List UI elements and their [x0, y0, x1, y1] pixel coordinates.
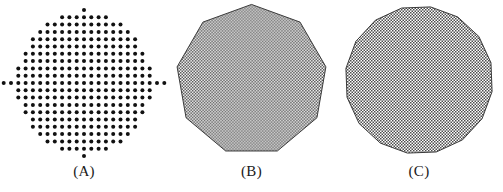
lattice-dot [67, 37, 71, 41]
lattice-dot [148, 81, 152, 85]
lattice-dot [31, 118, 35, 122]
lattice-dot [155, 81, 159, 85]
lattice-dot [104, 81, 108, 85]
lattice-dot [38, 125, 42, 129]
lattice-dot [104, 132, 108, 136]
lattice-dot [97, 74, 101, 78]
lattice-dot [126, 66, 130, 70]
lattice-dot [24, 81, 28, 85]
lattice-dot [82, 96, 86, 100]
lattice-dot [67, 96, 71, 100]
lattice-dot [89, 110, 93, 114]
lattice-dot [140, 74, 144, 78]
lattice-dot [140, 96, 144, 100]
lattice-dot [46, 45, 50, 49]
lattice-dot [60, 132, 64, 136]
panel-a-label: (A) [73, 164, 95, 179]
lattice-dot [119, 132, 123, 136]
lattice-dot [60, 23, 64, 27]
nonagon-shape [177, 4, 326, 151]
lattice-dot [53, 81, 57, 85]
lattice-dot [53, 125, 57, 129]
lattice-dot [31, 37, 35, 41]
lattice-dot [60, 30, 64, 34]
lattice-dot [119, 96, 123, 100]
lattice-dot [82, 30, 86, 34]
lattice-dot [97, 66, 101, 70]
lattice-dot [38, 30, 42, 34]
lattice-dot [60, 125, 64, 129]
lattice-dot [53, 23, 57, 27]
lattice-dot [60, 74, 64, 78]
lattice-dot [46, 96, 50, 100]
lattice-dot [104, 45, 108, 49]
nonagon-graphic [168, 0, 335, 158]
lattice-dot [104, 139, 108, 143]
lattice-dot [126, 103, 130, 107]
lattice-dot [89, 118, 93, 122]
lattice-dot [97, 103, 101, 107]
lattice-dot [119, 118, 123, 122]
lattice-dot [75, 59, 79, 63]
hexadecagon-shape [346, 7, 492, 153]
lattice-dot [75, 15, 79, 19]
lattice-dot [38, 132, 42, 136]
lattice-dot [67, 139, 71, 143]
lattice-dot [67, 110, 71, 114]
lattice-dot [119, 110, 123, 114]
lattice-dot [60, 81, 64, 85]
lattice-dot [126, 110, 130, 114]
lattice-dot [24, 110, 28, 114]
lattice-dot [111, 88, 115, 92]
lattice-dot [126, 88, 130, 92]
lattice-dot [89, 103, 93, 107]
lattice-dot [46, 118, 50, 122]
lattice-dot [111, 66, 115, 70]
lattice-dot [89, 132, 93, 136]
lattice-dot [111, 103, 115, 107]
lattice-dot [119, 45, 123, 49]
lattice-dot [104, 118, 108, 122]
lattice-dot [67, 132, 71, 136]
lattice-dot [111, 125, 115, 129]
lattice-dot [53, 45, 57, 49]
lattice-dot [67, 147, 71, 151]
lattice-dot [60, 45, 64, 49]
lattice-dot [53, 118, 57, 122]
hexadecagon-graphic [335, 0, 503, 158]
lattice-dot-isolated-left [2, 81, 6, 85]
lattice-dot [60, 88, 64, 92]
lattice-dot [104, 59, 108, 63]
lattice-dot [16, 81, 20, 85]
panel-a-artwork [0, 0, 168, 158]
lattice-dot [82, 37, 86, 41]
lattice-dot [97, 81, 101, 85]
lattice-dot [38, 81, 42, 85]
lattice-dot [53, 59, 57, 63]
lattice-dot [104, 66, 108, 70]
lattice-dot [126, 37, 130, 41]
lattice-dot [67, 15, 71, 19]
lattice-dot [82, 118, 86, 122]
lattice-dot [97, 96, 101, 100]
lattice-dot [119, 66, 123, 70]
lattice-dot [16, 88, 20, 92]
lattice-dot [97, 52, 101, 56]
lattice-dot [140, 66, 144, 70]
lattice-dot [82, 125, 86, 129]
lattice-dot [82, 23, 86, 27]
lattice-dot [38, 74, 42, 78]
lattice-dot [38, 45, 42, 49]
lattice-dot [75, 139, 79, 143]
lattice-dot [67, 52, 71, 56]
lattice-dot [67, 118, 71, 122]
lattice-dot [148, 74, 152, 78]
lattice-dot [89, 23, 93, 27]
lattice-dot [46, 88, 50, 92]
lattice-dot [126, 52, 130, 56]
lattice-dot [67, 59, 71, 63]
lattice-dot [140, 88, 144, 92]
lattice-dot [46, 52, 50, 56]
lattice-dot [82, 88, 86, 92]
lattice-dot [53, 52, 57, 56]
